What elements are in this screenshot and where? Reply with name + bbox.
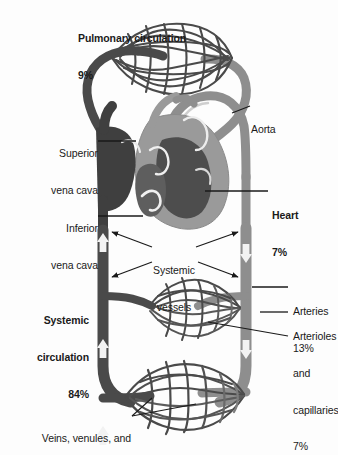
label-pulmonary-circulation-line1: Pulmonary circulation <box>78 32 186 44</box>
label-arterioles-line3: capillaries <box>293 404 338 416</box>
label-heart: Heart 7% <box>272 185 298 283</box>
label-systemic-circulation-line2: circulation <box>6 351 89 363</box>
label-inferior-vena-cava: Inferior vena cava <box>8 198 98 296</box>
label-heart-line1: Heart <box>272 209 298 221</box>
label-veins-venules: Veins, venules, and venous sinuses 64% <box>6 408 131 455</box>
label-superior-vena-cava-line2: vena cava <box>8 184 98 196</box>
label-arterioles-line2: and <box>293 367 338 379</box>
superior-vena-cava <box>104 106 112 130</box>
label-aorta: Aorta <box>251 99 276 160</box>
label-arterioles-line1: Arterioles <box>293 330 338 342</box>
label-superior-vena-cava-line1: Superior <box>8 147 98 159</box>
label-arterioles-capillaries: Arterioles and capillaries 7% <box>293 306 338 455</box>
label-arterioles-percent: 7% <box>293 440 338 452</box>
label-systemic-circulation: Systemic circulation 84% <box>6 290 89 424</box>
label-veins-venules-line1: Veins, venules, and <box>6 432 131 444</box>
circulatory-system-diagram: Pulmonary circulation 9% Aorta Superior … <box>0 0 338 455</box>
label-systemic-vessels-line2: vessels <box>145 301 203 313</box>
label-pulmonary-circulation-percent: 9% <box>78 69 186 81</box>
label-inferior-vena-cava-line2: vena cava <box>8 259 98 271</box>
label-aorta-text: Aorta <box>251 123 276 135</box>
heart <box>96 96 229 229</box>
label-systemic-vessels-line1: Systemic <box>145 264 203 276</box>
label-systemic-circulation-line1: Systemic <box>6 314 89 326</box>
label-inferior-vena-cava-line1: Inferior <box>8 222 98 234</box>
label-heart-percent: 7% <box>272 246 298 258</box>
label-pulmonary-circulation: Pulmonary circulation 9% <box>78 8 186 106</box>
label-systemic-vessels: Systemic vessels <box>145 240 203 338</box>
label-systemic-circulation-percent: 84% <box>6 388 89 400</box>
